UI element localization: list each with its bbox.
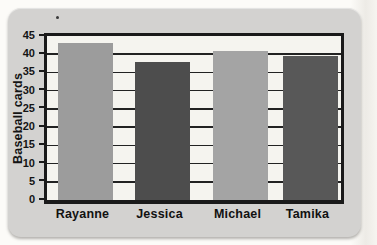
bar-rayanne: [58, 43, 113, 200]
x-category-label: Tamika: [263, 207, 353, 221]
y-tick-label: 15: [5, 138, 35, 150]
y-tick-label: 35: [5, 65, 35, 77]
y-tick-label: 25: [5, 102, 35, 114]
bar-tamika: [283, 56, 338, 200]
x-category-label: Jessica: [115, 207, 205, 221]
y-axis: 454035302520151050: [0, 33, 44, 204]
bar-jessica: [135, 62, 190, 200]
y-tick-label: 30: [5, 84, 35, 96]
plot-area: [44, 33, 344, 204]
y-tick-label: 0: [5, 193, 35, 205]
bar-michael: [213, 51, 268, 200]
y-tick-label: 40: [5, 47, 35, 59]
y-tick-label: 45: [5, 29, 35, 41]
y-tick-label: 5: [5, 175, 35, 187]
y-tick-label: 10: [5, 157, 35, 169]
speck-dot: [56, 16, 59, 19]
y-tick-label: 20: [5, 120, 35, 132]
x-axis-labels: RayanneJessicaMichaelTamika: [44, 207, 344, 223]
